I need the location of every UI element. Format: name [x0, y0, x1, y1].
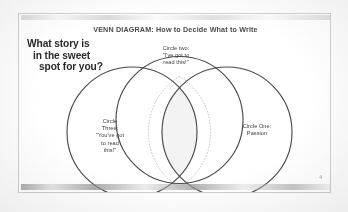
presentation-slide: VENN DIAGRAM: How to Decide What to Writ…: [18, 13, 331, 193]
circle-three-line-2: Three:: [81, 125, 139, 132]
circle-three-line-1: Circle: [81, 118, 139, 125]
venn-label-circle-two: Circle two: "I've got to read this!": [147, 45, 205, 67]
circle-one-line-1: Circle One:: [227, 123, 287, 130]
circle-three-line-4: to read: [81, 140, 139, 147]
venn-diagram: Circle two: "I've got to read this!" Cir…: [19, 14, 331, 193]
scan-artifact-bottom: [21, 184, 330, 190]
page-number: 4: [319, 174, 322, 180]
circle-three-line-3: "You've got: [81, 132, 139, 139]
circle-three-line-5: this!": [81, 147, 139, 154]
circle-two-line-1: Circle two:: [147, 45, 205, 52]
photo-canvas: VENN DIAGRAM: How to Decide What to Writ…: [0, 0, 348, 212]
venn-label-circle-one: Circle One: Passion: [227, 123, 287, 137]
venn-label-circle-three: Circle Three: "You've got to read this!": [81, 118, 139, 154]
circle-two-line-3: read this!": [147, 59, 205, 66]
circle-two-line-2: "I've got to: [147, 52, 205, 59]
circle-one-line-2: Passion: [227, 130, 287, 137]
venn-svg: [19, 14, 331, 193]
